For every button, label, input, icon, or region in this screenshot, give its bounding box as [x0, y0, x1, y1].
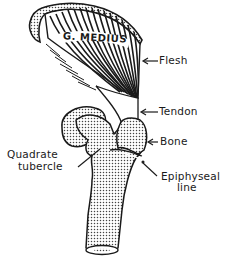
quadrate-tubercle-label-line1: Quadrate: [7, 149, 58, 160]
bone-pointer: [148, 139, 158, 145]
flesh-pointer: [143, 58, 158, 64]
quadrate-tubercle-label-line2: tubercle: [18, 161, 63, 172]
epiphyseal-pointer: [142, 161, 157, 176]
epiphyseal-label-line2: line: [177, 182, 197, 193]
tendon-pointer: [141, 109, 158, 115]
flesh-label: Flesh: [159, 55, 188, 66]
tendon-label: Tendon: [159, 106, 198, 117]
bone-label: Bone: [160, 136, 188, 147]
